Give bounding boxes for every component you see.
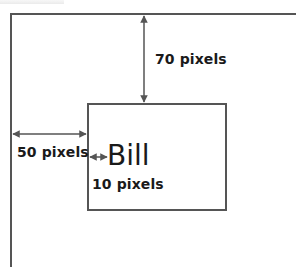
left-offset-label: 50 pixels xyxy=(17,145,89,159)
padding-left-label: 10 pixels xyxy=(92,177,164,191)
box-text: Bill xyxy=(107,142,150,170)
dimension-arrows xyxy=(0,0,305,270)
top-offset-label: 70 pixels xyxy=(155,52,227,66)
